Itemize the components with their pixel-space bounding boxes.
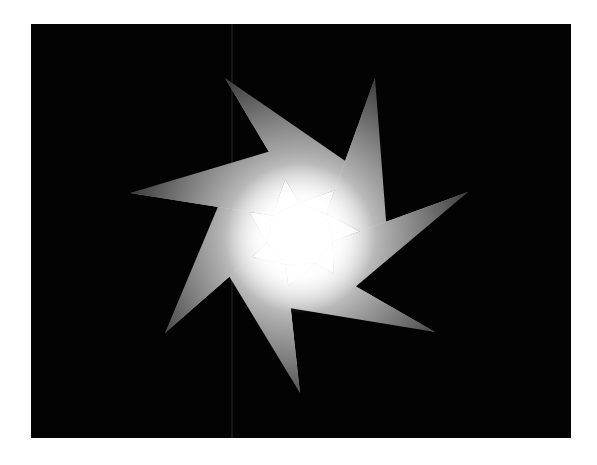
figure-canvas: Seven-pointed pinwheel star with radial … <box>0 0 597 465</box>
star-figure <box>0 0 597 465</box>
center-glow <box>225 163 375 313</box>
